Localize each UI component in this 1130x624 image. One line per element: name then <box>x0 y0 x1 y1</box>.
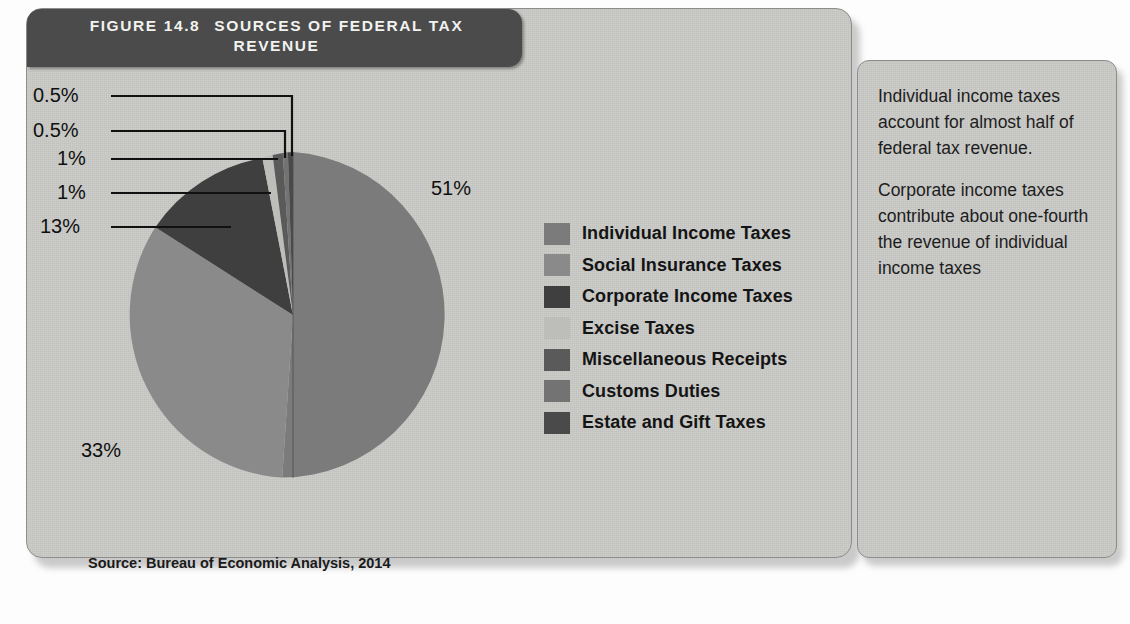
legend-item-estate-and-gift-taxes[interactable]: Estate and Gift Taxes <box>544 407 793 439</box>
legend-item-customs-duties[interactable]: Customs Duties <box>544 376 793 408</box>
pct-label-individual-income-taxes: 51% <box>431 177 471 200</box>
legend-swatch-social-insurance-taxes <box>544 254 570 276</box>
legend-swatch-miscellaneous-receipts <box>544 349 570 371</box>
legend-item-individual-income-taxes[interactable]: Individual Income Taxes <box>544 218 793 250</box>
legend-swatch-individual-income-taxes <box>544 223 570 245</box>
pie-slice-individual-income-taxes <box>282 152 444 478</box>
caption-paragraph-1: Individual income taxes account for almo… <box>878 83 1098 161</box>
caption-panel: Individual income taxes account for almo… <box>857 60 1117 558</box>
legend-label-miscellaneous-receipts: Miscellaneous Receipts <box>582 349 787 370</box>
pct-label-miscellaneous-receipts: 1% <box>57 147 86 170</box>
legend-label-individual-income-taxes: Individual Income Taxes <box>582 223 791 244</box>
figure-title-bar: FIGURE 14.8SOURCES OF FEDERAL TAX REVENU… <box>27 9 522 67</box>
chart-legend: Individual Income Taxes Social Insurance… <box>544 218 793 439</box>
legend-label-customs-duties: Customs Duties <box>582 381 720 402</box>
legend-item-excise-taxes[interactable]: Excise Taxes <box>544 313 793 345</box>
legend-item-corporate-income-taxes[interactable]: Corporate Income Taxes <box>544 281 793 313</box>
legend-item-social-insurance-taxes[interactable]: Social Insurance Taxes <box>544 250 793 282</box>
leader-line-estate-and-gift-taxes <box>111 96 292 156</box>
legend-swatch-excise-taxes <box>544 317 570 339</box>
pct-label-estate-and-gift-taxes: 0.5% <box>33 84 79 107</box>
legend-label-corporate-income-taxes: Corporate Income Taxes <box>582 286 793 307</box>
pct-label-customs-duties: 0.5% <box>33 119 79 142</box>
leader-line-customs-duties <box>111 131 285 158</box>
pct-label-excise-taxes: 1% <box>57 181 86 204</box>
legend-label-estate-and-gift-taxes: Estate and Gift Taxes <box>582 412 766 433</box>
figure-source: Source: Bureau of Economic Analysis, 201… <box>88 555 390 571</box>
pct-label-corporate-income-taxes: 13% <box>40 215 80 238</box>
figure-page: FIGURE 14.8SOURCES OF FEDERAL TAX REVENU… <box>0 0 1130 624</box>
legend-swatch-customs-duties <box>544 380 570 402</box>
pct-label-social-insurance-taxes: 33% <box>81 439 121 462</box>
legend-label-excise-taxes: Excise Taxes <box>582 318 695 339</box>
pie-chart: 0.5% 0.5% 1% 1% 13% 51% 33% Individual I… <box>26 8 852 558</box>
page-title: SOURCES OF FEDERAL TAX REVENUE <box>214 17 463 54</box>
figure-title-text: FIGURE 14.8SOURCES OF FEDERAL TAX REVENU… <box>49 16 504 56</box>
figure-number: FIGURE 14.8 <box>90 17 201 34</box>
legend-item-miscellaneous-receipts[interactable]: Miscellaneous Receipts <box>544 344 793 376</box>
legend-swatch-corporate-income-taxes <box>544 286 570 308</box>
legend-label-social-insurance-taxes: Social Insurance Taxes <box>582 255 782 276</box>
legend-swatch-estate-and-gift-taxes <box>544 412 570 434</box>
caption-paragraph-2: Corporate income taxes contribute about … <box>878 177 1098 281</box>
